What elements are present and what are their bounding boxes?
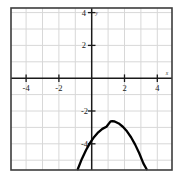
x-tick-label-4: 4	[155, 83, 160, 93]
y-tick-label-minus2: -2	[81, 106, 88, 116]
graph-figure: -4 -2 2 4 4 2 -2 -4 y x	[0, 0, 179, 177]
y-axis-name-label: y	[95, 10, 99, 16]
x-tick-label-2: 2	[122, 83, 126, 93]
x-axis-name-label: x	[165, 70, 169, 76]
coordinate-plane: -4 -2 2 4 4 2 -2 -4 y x	[0, 0, 179, 177]
x-tick-label-minus2: -2	[55, 83, 62, 93]
y-tick-label-2: 2	[82, 40, 86, 50]
x-tick-label-minus4: -4	[23, 83, 31, 93]
